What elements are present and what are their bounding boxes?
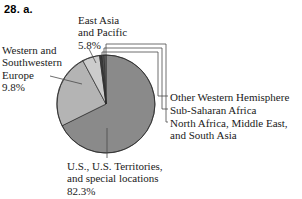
- pie-label-other-western-hemisphere: Other Western Hemisphere: [170, 91, 289, 103]
- pie-label-east-asia: East Asia and Pacific 5.8%: [78, 14, 127, 51]
- pie-chart-figure: 28. a.: [0, 0, 302, 199]
- pie-label-sub-saharan-africa: Sub-Saharan Africa: [170, 104, 256, 116]
- pie-label-north-africa-middle-east: North Africa, Middle East, and South Asi…: [170, 117, 288, 142]
- pie-label-us-territories: U.S., U.S. Territories, and special loca…: [67, 160, 163, 197]
- pie-label-western-europe: Western and Southwestern Europe 9.8%: [2, 44, 62, 94]
